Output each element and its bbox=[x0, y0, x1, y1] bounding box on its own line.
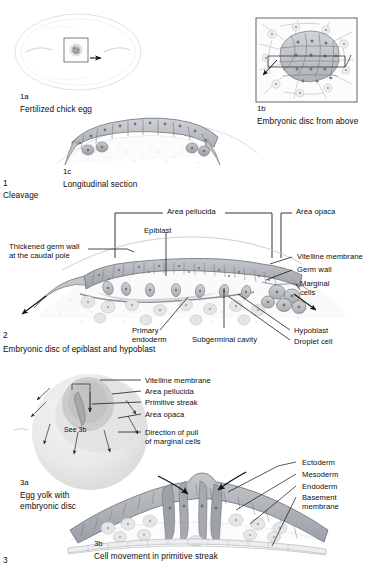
label-epiblast: Epiblast bbox=[144, 226, 171, 235]
panel-1b-id: 1b bbox=[257, 104, 266, 114]
pull-arrow-left bbox=[22, 296, 46, 314]
section-1-number: 1 bbox=[3, 179, 8, 189]
yolk-edge-mark bbox=[14, 429, 28, 431]
label-droplet-cell: Droplet cell bbox=[294, 337, 333, 346]
label-primary-endoderm-line1: Primary bbox=[132, 326, 159, 335]
panel-1a-id: 1a bbox=[20, 92, 29, 102]
section-2-number: 2 bbox=[3, 331, 8, 341]
panel-3a-caption-line2: embryonic disc bbox=[20, 501, 76, 511]
panel-3b-caption: Cell movement in primitive streak bbox=[94, 551, 218, 561]
label-basement-membrane-line2: membrane bbox=[302, 502, 339, 511]
label-thickened-germ-wall-line1: Thickened germ wall bbox=[9, 242, 80, 251]
panel-3b-id: 3b bbox=[94, 539, 103, 549]
panel-3a-id: 3a bbox=[20, 478, 29, 488]
section-1-title: Cleavage bbox=[3, 190, 38, 200]
label-area-pellucida-2: Area pellucida bbox=[167, 207, 216, 216]
vitelline-cover bbox=[68, 381, 108, 423]
label-thickened-germ-wall-line2: at the caudal pole bbox=[9, 251, 70, 260]
label-basement-membrane-line1: Basement bbox=[302, 493, 337, 502]
label-marginal-cells-line2: cells bbox=[300, 288, 315, 297]
label-germ-wall: Germ wall bbox=[297, 265, 332, 274]
label-primary-endoderm-line2: endoderm bbox=[132, 335, 167, 344]
label-primitive-streak: Primitive streak bbox=[145, 398, 198, 407]
panel-1b-caption: Embryonic disc from above bbox=[257, 116, 358, 126]
label-vitelline-membrane-2: Vitelline membrane bbox=[297, 252, 363, 261]
figure-plate: 1a Fertilized chick egg 1b Embryonic dis… bbox=[0, 0, 379, 565]
panel-1a-caption: Fertilized chick egg bbox=[20, 104, 92, 114]
label-hypoblast: Hypoblast bbox=[294, 326, 328, 335]
panel-1c-id: 1c bbox=[63, 167, 71, 177]
streak-nuclei bbox=[169, 505, 218, 510]
panel-2-artwork bbox=[22, 213, 346, 340]
label-ectoderm: Ectoderm bbox=[302, 458, 335, 467]
panel-1b-artwork bbox=[256, 18, 357, 102]
ingressing-cell-3 bbox=[199, 481, 207, 543]
bracket-area-pellucida bbox=[115, 213, 272, 258]
section-3-number: 3 bbox=[3, 556, 8, 565]
panel-3a-caption-line1: Egg yolk with bbox=[20, 490, 70, 500]
label-mesoderm: Mesoderm bbox=[302, 470, 338, 479]
blastodisc-speck bbox=[70, 44, 83, 57]
label-direction-of-pull-line1: Direction of pull bbox=[145, 428, 198, 437]
label-see-3b: See 3b bbox=[64, 425, 87, 434]
label-endoderm: Endoderm bbox=[302, 482, 337, 491]
label-marginal-cells-line1: Marginal bbox=[300, 279, 330, 288]
label-vitelline-membrane-3a: Vitelline membrane bbox=[145, 376, 211, 385]
panel-1a-artwork bbox=[15, 14, 141, 90]
bracket-area-opaca bbox=[281, 213, 292, 258]
panel-1c-artwork bbox=[57, 118, 257, 165]
section-2-title: Embryonic disc of epiblast and hypoblast bbox=[3, 344, 155, 354]
label-subgerminal-cavity: Subgerminal cavity bbox=[192, 335, 257, 344]
label-area-opaca-2: Area opaca bbox=[296, 207, 335, 216]
label-direction-of-pull-line2: of marginal cells bbox=[145, 437, 201, 446]
label-area-pellucida-3a: Area pellucida bbox=[145, 387, 194, 396]
panel-1c-caption: Longitudinal section bbox=[63, 179, 137, 189]
label-area-opaca-3a: Area opaca bbox=[145, 410, 184, 419]
